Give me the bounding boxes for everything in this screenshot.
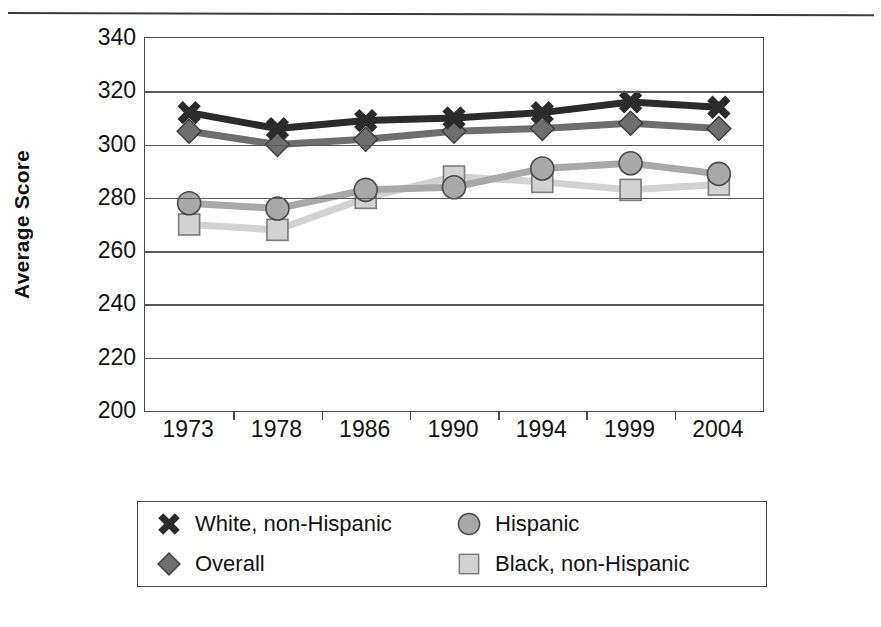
x-tick-label: 1978 — [251, 418, 302, 441]
x-tick-label: 1994 — [516, 418, 567, 441]
data-point — [707, 117, 731, 141]
chart-legend: White, non-HispanicHispanicOverallBlack,… — [137, 501, 767, 587]
legend-item-label: Overall — [195, 553, 265, 575]
top-divider-rule — [8, 12, 874, 16]
square-icon — [456, 551, 482, 577]
plot-wrapper: 200220240260280300320340 197319781986199… — [84, 20, 784, 460]
data-point — [177, 119, 201, 143]
data-point — [531, 157, 554, 180]
legend-item-label: White, non-Hispanic — [195, 513, 392, 535]
y-tick-label: 340 — [84, 26, 136, 49]
gridline — [145, 304, 763, 305]
diamond-icon — [156, 551, 182, 577]
data-point — [178, 192, 201, 215]
data-point — [354, 127, 378, 151]
legend-item[interactable]: White, non-Hispanic — [156, 511, 456, 537]
y-axis-title: Average Score — [10, 150, 50, 299]
circle-icon — [456, 511, 482, 537]
legend-item-label: Black, non-Hispanic — [495, 553, 689, 575]
gridline — [145, 91, 763, 92]
data-point — [707, 162, 730, 185]
series-layer — [145, 38, 763, 411]
chart-figure: Average Score 200220240260280300320340 1… — [0, 20, 881, 490]
data-point — [619, 111, 643, 135]
data-point — [267, 219, 288, 240]
x-tick-label: 1990 — [427, 418, 478, 441]
y-tick-label: 280 — [84, 185, 136, 208]
legend-item[interactable]: Black, non-Hispanic — [456, 551, 786, 577]
gridline — [145, 358, 763, 359]
gridline — [145, 251, 763, 252]
data-point — [619, 152, 642, 175]
y-tick-label: 300 — [84, 132, 136, 155]
y-axis-tick-labels: 200220240260280300320340 — [84, 20, 136, 415]
x-tick-label: 1999 — [604, 418, 655, 441]
legend-item[interactable]: Hispanic — [456, 511, 786, 537]
x-tick-label: 1986 — [339, 418, 390, 441]
x-axis-tick-labels: 1973197819861990199419992004 — [144, 418, 762, 458]
y-tick-label: 220 — [84, 345, 136, 368]
data-point — [179, 214, 200, 235]
gridline — [145, 198, 763, 199]
legend-item[interactable]: Overall — [156, 551, 456, 577]
x-tick-label: 1973 — [163, 418, 214, 441]
chart-page: Average Score 200220240260280300320340 1… — [0, 0, 881, 627]
y-tick-label: 320 — [84, 79, 136, 102]
y-tick-label: 260 — [84, 239, 136, 262]
y-tick-label: 200 — [84, 399, 136, 422]
y-tick-label: 240 — [84, 292, 136, 315]
x-tick-label: 2004 — [692, 418, 743, 441]
data-point — [443, 176, 466, 199]
data-point — [266, 197, 289, 220]
x-cross-icon — [156, 511, 182, 537]
gridline — [145, 145, 763, 146]
legend-item-label: Hispanic — [495, 513, 579, 535]
plot-area — [144, 37, 764, 412]
